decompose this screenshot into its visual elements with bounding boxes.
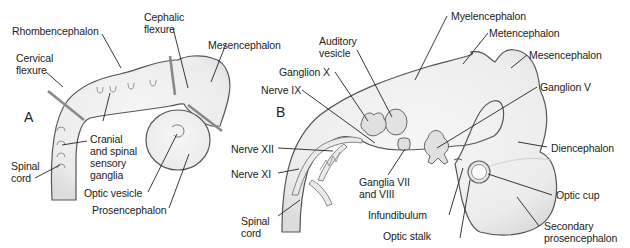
label-myelencephalon: Myelencephalon (451, 10, 526, 22)
label-rhombencephalon-a: Rhombencephalon (12, 25, 99, 37)
panel-a-letter: A (24, 109, 33, 125)
panel-a-brain (48, 56, 230, 200)
label-prosencephalon-a: Prosencephalon (92, 204, 167, 216)
label-ganglion-v: Ganglion V (540, 81, 591, 93)
label-cervical-flexure-line2: flexure (16, 64, 47, 76)
label-optic-vesicle: Optic vesicle (84, 187, 142, 199)
label-ganglia-vii-viii-line2: and VIII (359, 188, 394, 200)
label-ganglion-x: Ganglion X (279, 66, 330, 78)
embryonic-brain-diagram: A Rhombencephalon Cephalic flexure Cervi… (0, 0, 630, 248)
label-diencephalon: Diencephalon (551, 142, 614, 154)
label-secondary-prosencephalon-line1: Secondary (544, 220, 593, 232)
label-cephalic-flexure-line2: flexure (144, 23, 175, 35)
label-cephalic-flexure-line1: Cephalic (144, 11, 184, 23)
label-infundibulum: Infundibulum (368, 209, 427, 221)
label-nerve-xi: Nerve XI (231, 168, 271, 180)
label-spinal-cord-b-line1: Spinal (241, 215, 270, 227)
label-cranial-spinal-ganglia-line2: and spinal (90, 145, 137, 157)
label-spinal-cord-a-line1: Spinal (11, 160, 40, 172)
label-cranial-spinal-ganglia-line1: Cranial (90, 133, 123, 145)
auditory-vesicle-b (385, 109, 407, 135)
label-mesencephalon-b: Mesencephalon (529, 49, 602, 61)
label-auditory-vesicle-line2: vesicle (319, 47, 350, 59)
label-optic-cup: Optic cup (556, 189, 599, 201)
label-spinal-cord-a-line2: cord (11, 172, 31, 184)
label-cranial-spinal-ganglia-line3: sensory (90, 157, 126, 169)
label-spinal-cord-b-line2: cord (241, 227, 261, 239)
label-auditory-vesicle-line1: Auditory (319, 35, 357, 47)
label-cranial-spinal-ganglia-line4: ganglia (90, 169, 123, 181)
label-ganglia-vii-viii-line1: Ganglia VII (359, 176, 410, 188)
label-optic-stalk: Optic stalk (383, 230, 431, 242)
label-secondary-prosencephalon-line2: prosencephalon (544, 232, 617, 244)
label-nerve-ix: Nerve IX (261, 84, 301, 96)
label-cervical-flexure-line1: Cervical (16, 52, 53, 64)
prosencephalon-a (146, 110, 210, 170)
label-mesencephalon-a: Mesencephalon (208, 39, 281, 51)
label-nerve-xii: Nerve XII (231, 143, 274, 155)
panel-b-letter: B (276, 104, 285, 120)
label-metencephalon: Metencephalon (489, 27, 560, 39)
